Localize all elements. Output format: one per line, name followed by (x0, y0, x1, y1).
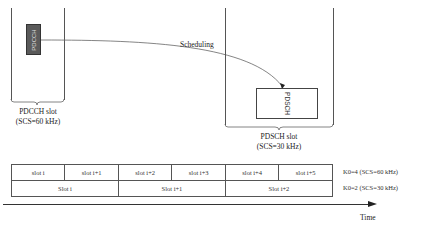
slot-30khz-cell: Slot i+2 (225, 181, 332, 197)
slot-30khz-cell: Slot i+1 (118, 181, 225, 197)
pdsch-slot-right-boundary (333, 8, 334, 125)
pdsch-slot-left-boundary (225, 8, 226, 125)
pdcch-slot-label-line1: PDCCH slot (2, 107, 74, 117)
row-30khz-slots: Slot i Slot i+1 Slot i+2 (12, 181, 333, 197)
pdsch-block-label: PDSCH (283, 92, 290, 115)
row-60khz-slots: slot i slot i+1 slot i+2 slot i+3 slot i… (12, 165, 333, 181)
slot-60khz-cell: slot i+5 (279, 165, 333, 181)
scheduling-label: Scheduling (180, 40, 214, 49)
pdsch-slot-label-line1: PDSCH slot (240, 132, 318, 142)
scheduling-arrow (41, 40, 282, 86)
pdsch-block: PDSCH (256, 88, 318, 119)
k0-label-60khz: K0=4 (SCS=60 kHz) (343, 168, 398, 175)
pdcch-block: PDCCH (26, 24, 41, 55)
time-axis (3, 204, 370, 205)
slot-60khz-cell: slot i+1 (65, 165, 118, 181)
pdsch-slot-label-line2: (SCS=30 kHz) (240, 142, 318, 152)
slot-60khz-cell: slot i (12, 165, 65, 181)
slot-timeline-table: slot i slot i+1 slot i+2 slot i+3 slot i… (11, 164, 333, 197)
pdcch-slot-label: PDCCH slot (SCS=60 kHz) (2, 107, 74, 127)
slot-30khz-cell: Slot i (12, 181, 119, 197)
time-axis-arrowhead-icon (368, 201, 377, 207)
time-axis-label: Time (360, 213, 376, 222)
slot-60khz-cell: slot i+3 (172, 165, 225, 181)
pdcch-block-label: PDCCH (31, 29, 37, 50)
slot-60khz-cell: slot i+4 (225, 165, 278, 181)
pdcch-slot-label-line2: (SCS=60 kHz) (2, 117, 74, 127)
pdsch-slot-label: PDSCH slot (SCS=30 kHz) (240, 132, 318, 152)
k0-label-30khz: K0=2 (SCS=30 kHz) (343, 184, 398, 191)
slot-60khz-cell: slot i+2 (118, 165, 171, 181)
